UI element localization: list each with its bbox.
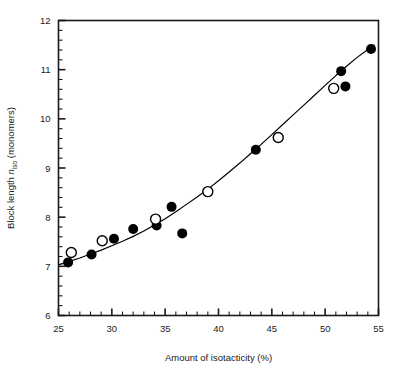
x-tick-label: 55: [373, 323, 384, 334]
x-axis-title: Amount of isotacticity (%): [165, 352, 272, 363]
y-tick-label: 6: [45, 310, 50, 321]
open-circle-marker: [203, 187, 213, 197]
open-circle-marker: [329, 83, 339, 93]
y-tick-label: 12: [40, 15, 51, 26]
open-circle-marker: [97, 236, 107, 246]
filled-circle-marker: [177, 228, 187, 238]
x-tick-label: 45: [267, 323, 278, 334]
scatter-plot-svg: 25303540455055 6789101112 Amount of isot…: [0, 0, 402, 374]
x-tick-label: 50: [320, 323, 331, 334]
y-tick-label: 11: [41, 64, 51, 75]
x-tick-label: 40: [213, 323, 224, 334]
y-tick-label: 7: [45, 261, 50, 272]
filled-circle-marker: [340, 81, 350, 91]
open-circle-marker: [66, 248, 76, 258]
filled-circle-marker: [366, 44, 376, 54]
x-tick-label: 35: [160, 323, 171, 334]
filled-circle-marker: [167, 202, 177, 212]
filled-circle-marker: [63, 257, 73, 267]
filled-circle-marker: [251, 145, 261, 155]
filled-circle-marker: [87, 250, 97, 260]
x-tick-label: 30: [107, 323, 118, 334]
chart-background: [0, 0, 402, 374]
y-tick-label: 8: [45, 212, 50, 223]
open-circle-marker: [273, 133, 283, 143]
filled-circle-marker: [128, 224, 138, 234]
filled-circle-marker: [336, 66, 346, 76]
x-axis-title-text: Amount of isotacticity (%): [165, 352, 272, 363]
y-tick-label: 10: [40, 113, 51, 124]
filled-circle-marker: [109, 234, 119, 244]
open-circle-marker: [151, 214, 161, 224]
chart-figure: 25303540455055 6789101112 Amount of isot…: [0, 0, 402, 374]
y-tick-label: 9: [45, 163, 50, 174]
x-tick-label: 25: [53, 323, 64, 334]
